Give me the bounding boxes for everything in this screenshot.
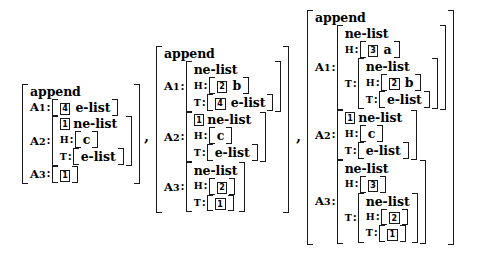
attribute-label-head: H <box>366 76 376 90</box>
attribute-row-head: H : 3 a <box>345 41 438 58</box>
avm-body: 1 <box>60 166 71 183</box>
avm-body: ne-list H : 3 a <box>345 25 438 110</box>
type-name-append: append <box>164 47 281 61</box>
attribute-label-head: H <box>345 43 355 57</box>
bracket-right <box>267 94 273 111</box>
bracket-right <box>448 10 454 245</box>
attribute-label-a1: A1 <box>315 60 332 75</box>
attribute-label-tail: T <box>366 226 374 240</box>
attribute-row-a2: A2 : 1 ne-list H : <box>30 116 132 166</box>
value-avm: e-list <box>379 91 430 108</box>
avm-body: e-list <box>215 144 250 161</box>
attribute-row-head: H : 2 <box>194 178 238 195</box>
coindex-tag: 1 <box>60 118 71 130</box>
bracket-left <box>360 125 366 142</box>
attribute-label-tail: T <box>194 196 202 210</box>
value-avm: ne-list H : 2 <box>186 162 246 212</box>
bracket-left <box>360 176 366 193</box>
attribute-row-head: H : c <box>194 127 258 144</box>
bracket-left <box>337 25 343 110</box>
avm-body: c <box>217 127 225 144</box>
value-avm: c <box>209 127 233 144</box>
avm-body: 4 e-list <box>215 94 266 111</box>
attribute-label-tail: T <box>345 211 353 225</box>
bracket-right <box>402 209 408 226</box>
attribute-label-tail: T <box>194 146 202 160</box>
attribute-row-a2: A2 : 1 ne-list H : <box>315 110 446 160</box>
bracket-left <box>381 209 387 226</box>
attribute-label-a3: A3 <box>164 180 181 195</box>
type-name-ne-list: ne-list <box>358 111 402 125</box>
type-name-ne-list-line: 1 ne-list <box>60 117 124 131</box>
bracket-left <box>209 178 215 195</box>
avm-body: 1 ne-list H : c <box>345 110 409 160</box>
atom-e-list: e-list <box>387 92 422 107</box>
avm-body: append A1 : ne-list H : <box>315 10 446 245</box>
avm-body: 2 b <box>389 74 414 91</box>
value-avm: 4 e-list <box>207 94 274 111</box>
bracket-right <box>394 41 400 58</box>
coindex-tag: 2 <box>389 212 400 224</box>
avm-root-3: append A1 : ne-list H : <box>307 10 454 245</box>
avm-body: c <box>368 125 376 142</box>
bracket-right <box>440 25 446 110</box>
atom-e-list: e-list <box>231 95 266 110</box>
attribute-label-a1: A1 <box>164 79 181 94</box>
type-name-ne-list: ne-list <box>366 194 410 209</box>
bracket-left <box>337 110 343 160</box>
bracket-left <box>52 99 58 116</box>
bracket-right <box>243 77 249 94</box>
bracket-left <box>209 77 215 94</box>
attribute-row-tail: T : e-list <box>194 144 258 161</box>
atom-b: b <box>233 78 242 93</box>
bracket-right <box>412 193 418 243</box>
coindex-tag: 3 <box>368 180 379 192</box>
atom-e-list: e-list <box>366 143 401 158</box>
type-name-ne-list-line: 1 ne-list <box>345 111 409 125</box>
bracket-right <box>229 178 235 195</box>
atom-e-list: e-list <box>75 100 110 115</box>
bracket-right <box>380 176 386 193</box>
coindex-tag: 1 <box>387 229 398 241</box>
bracket-right <box>260 112 266 162</box>
avm-body: 1 <box>387 225 398 242</box>
bracket-left <box>75 131 81 148</box>
coindex-tag: 4 <box>60 103 71 115</box>
value-avm: 1 ne-list H : c <box>52 116 132 166</box>
value-avm: 3 a <box>360 41 400 58</box>
coindex-tag: 1 <box>215 198 226 210</box>
value-avm: 1 ne-list H : c <box>337 110 417 160</box>
avm-body: 2 <box>389 209 400 226</box>
atom-c: c <box>217 128 225 143</box>
value-avm: 2 <box>381 209 408 226</box>
bracket-left <box>52 166 58 183</box>
bracket-left <box>379 91 385 108</box>
bracket-left <box>358 142 364 159</box>
attribute-label-head: H <box>366 210 376 224</box>
attribute-label-tail: T <box>345 144 353 158</box>
avm-root-2: append A1 : ne-list H : <box>156 46 289 213</box>
bracket-right <box>432 58 438 109</box>
attribute-label-a1: A1 <box>30 100 47 115</box>
attribute-label-tail: T <box>345 77 353 91</box>
bracket-right <box>252 144 258 161</box>
atom-c: c <box>83 132 91 147</box>
attribute-row-tail: T : e-list <box>345 142 409 159</box>
separator-comma-1: , <box>144 129 149 144</box>
attribute-row-a1: A1 : ne-list H : <box>315 25 446 110</box>
value-avm: 3 <box>360 176 387 193</box>
bracket-left <box>358 58 364 109</box>
type-name-ne-list: ne-list <box>207 113 251 127</box>
bracket-right <box>377 125 383 142</box>
avm-body: 4 e-list <box>60 99 111 116</box>
attribute-label-head: H <box>345 177 355 191</box>
bracket-right <box>400 225 406 242</box>
value-avm: ne-list H : 2 <box>358 58 438 109</box>
value-avm: 4 e-list <box>52 99 119 116</box>
value-avm: e-list <box>207 144 258 161</box>
avm-body: ne-list H : 2 <box>366 193 410 243</box>
attribute-row-a1: A1 : ne-list H : <box>164 61 281 112</box>
value-avm: 1 ne-list H : c <box>186 112 266 162</box>
type-name-ne-list: ne-list <box>194 163 238 178</box>
avm-body: ne-list H : 3 <box>345 160 418 244</box>
